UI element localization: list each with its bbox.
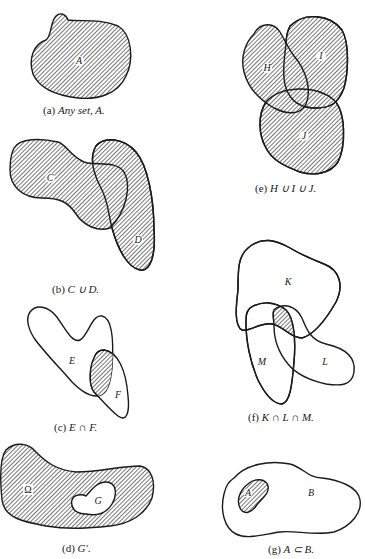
label-omega: Ω — [24, 484, 31, 495]
label-m: M — [257, 356, 267, 367]
panel-c-diagram: E F — [28, 307, 129, 418]
label-g: G — [94, 495, 101, 506]
caption-d: (d) G′. — [62, 542, 91, 554]
panel-f-diagram: K L M — [236, 240, 354, 404]
label-k: K — [284, 276, 293, 287]
caption-c: (c) E ∩ F. — [54, 421, 97, 433]
label-l: L — [321, 356, 328, 367]
label-c: C — [47, 172, 54, 183]
label-f: F — [114, 389, 122, 400]
caption-b: (b) C ∪ D. — [52, 283, 99, 296]
caption-a: (a) Any set, A. — [43, 104, 105, 116]
label-d: D — [133, 234, 142, 245]
label-b: B — [308, 487, 314, 498]
label-h: H — [262, 62, 271, 73]
label-a: A — [75, 55, 83, 66]
label-i: I — [318, 50, 323, 61]
caption-f: (f) K ∩ L ∩ M. — [248, 411, 314, 423]
caption-e: (e) H ∪ I ∪ J. — [255, 182, 316, 195]
caption-g: (g) A ⊂ B. — [268, 543, 314, 556]
venn-diagram-figure: A C D E F Ω G H I — [0, 0, 365, 559]
label-j: J — [302, 130, 307, 141]
label-a-subset: A — [244, 487, 252, 498]
label-e: E — [68, 355, 75, 366]
set-a-subset-shape — [238, 480, 268, 513]
panel-g-diagram: A B — [223, 463, 361, 537]
panel-e-diagram: H I J — [243, 17, 348, 174]
panel-a-diagram: A — [31, 14, 130, 98]
intersection-k-l-m — [273, 306, 354, 385]
panel-d-diagram: Ω G — [1, 444, 154, 528]
panel-b-diagram: C D — [10, 140, 154, 271]
